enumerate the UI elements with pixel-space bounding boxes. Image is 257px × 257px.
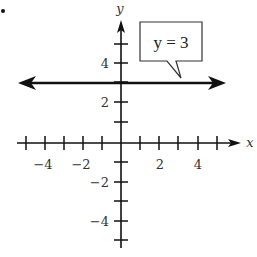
- y-tick-label: −2: [90, 175, 109, 190]
- y-tick-label: 2: [101, 95, 109, 110]
- x-tick-label: 2: [156, 157, 164, 172]
- x-tick-label: 4: [194, 157, 202, 172]
- y-tick-label: 4: [101, 56, 109, 71]
- y-axis-label: y: [115, 1, 124, 16]
- graph: −4 −2 2 4 4 2 −2 −4 x y y = 3: [0, 0, 257, 257]
- equation-callout: y = 3: [140, 22, 202, 78]
- bullet-marker: [1, 9, 5, 13]
- x-tick-label: −2: [71, 157, 90, 172]
- callout-text: y = 3: [153, 33, 188, 52]
- line-y-equals-3: [18, 76, 226, 90]
- x-tick-label: −4: [33, 157, 52, 172]
- y-tick-label: −4: [90, 214, 109, 229]
- x-axis-label: x: [246, 135, 254, 150]
